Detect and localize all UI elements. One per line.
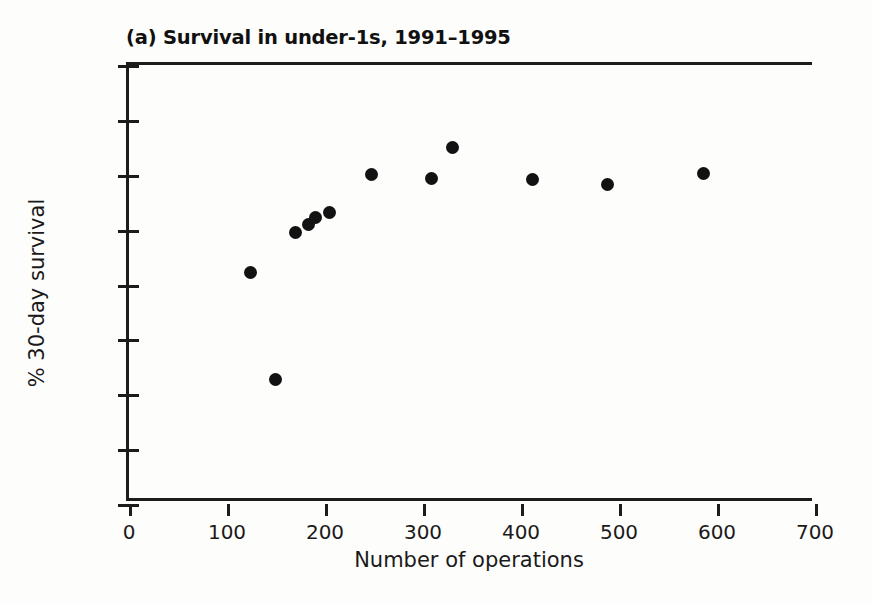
x-tick-mark <box>815 504 818 516</box>
y-tick-mark-inner <box>129 339 139 342</box>
data-point <box>365 168 378 181</box>
data-point <box>309 211 322 224</box>
y-tick-mark <box>118 449 129 452</box>
data-point <box>244 266 257 279</box>
x-tick-label: 100 <box>187 520 267 544</box>
x-tick-mark <box>619 504 622 516</box>
y-tick-mark-inner <box>129 175 139 178</box>
y-tick-mark <box>118 285 129 288</box>
x-tick-mark <box>227 504 230 516</box>
plot-inner: 6065707580859095100 01002003004005006007… <box>129 65 812 498</box>
data-point <box>697 167 710 180</box>
data-point <box>425 172 438 185</box>
figure-container: (a) Survival in under-1s, 1991–1995 % 30… <box>0 0 872 603</box>
data-point <box>323 206 336 219</box>
x-tick-label: 500 <box>579 520 659 544</box>
x-tick-mark <box>521 504 524 516</box>
y-tick-mark-inner <box>129 65 139 68</box>
data-point <box>269 373 282 386</box>
y-tick-mark <box>118 339 129 342</box>
y-tick-mark-inner <box>129 449 139 452</box>
x-tick-label: 600 <box>677 520 757 544</box>
chart-title: (a) Survival in under-1s, 1991–1995 <box>126 26 511 49</box>
y-tick-mark-inner <box>129 394 139 397</box>
x-tick-label: 700 <box>775 520 855 544</box>
y-tick-mark-inner <box>129 230 139 233</box>
x-tick-label: 0 <box>89 520 169 544</box>
data-point <box>526 173 539 186</box>
data-point <box>601 178 614 191</box>
x-tick-label: 300 <box>383 520 463 544</box>
y-tick-mark <box>118 230 129 233</box>
x-tick-mark <box>129 504 132 516</box>
y-tick-mark <box>118 504 129 507</box>
y-tick-mark-inner <box>129 120 139 123</box>
y-tick-mark <box>118 175 129 178</box>
x-tick-mark <box>423 504 426 516</box>
y-tick-mark <box>118 65 129 68</box>
plot-area: 6065707580859095100 01002003004005006007… <box>126 62 812 501</box>
y-tick-mark <box>118 120 129 123</box>
data-point <box>446 141 459 154</box>
data-point <box>289 226 302 239</box>
x-tick-mark <box>717 504 720 516</box>
y-axis-title: % 30-day survival <box>25 143 49 443</box>
x-tick-label: 400 <box>481 520 561 544</box>
x-tick-label: 200 <box>285 520 365 544</box>
y-tick-mark <box>118 394 129 397</box>
x-tick-mark <box>325 504 328 516</box>
y-tick-mark-inner <box>129 285 139 288</box>
x-axis-title: Number of operations <box>126 548 812 572</box>
